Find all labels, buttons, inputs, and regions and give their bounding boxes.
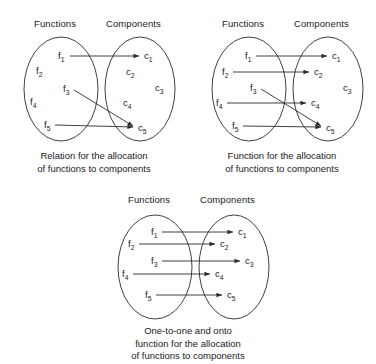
node-f2: f2 — [222, 66, 229, 79]
node-c3: c3 — [245, 255, 254, 268]
node-c4: c4 — [311, 97, 320, 110]
bijection-caption: One-to-one and onto function for the all… — [94, 325, 282, 363]
node-f1: f1 — [245, 50, 252, 63]
relation-caption: Relation for the allocation of functions… — [0, 150, 188, 175]
node-f5: f5 — [232, 120, 239, 133]
node-c4: c4 — [215, 268, 224, 281]
node-f3: f3 — [151, 255, 158, 268]
panel-bijection: Functions Components f1 f2 f3 f4 f5 c1 c… — [94, 182, 282, 364]
bijection-caption-line-1: One-to-one and onto — [94, 325, 282, 338]
node-f1: f1 — [151, 226, 158, 239]
node-c2: c2 — [220, 238, 229, 251]
node-f2: f2 — [128, 238, 135, 251]
functions-column-header: Functions — [34, 18, 76, 29]
panel-relation: Functions Components f1 f2 f3 f4 f5 c1 c… — [0, 0, 188, 182]
node-f5: f5 — [44, 119, 51, 132]
relation-caption-line-1: Relation for the allocation — [0, 150, 188, 163]
edge-f3-c5 — [74, 90, 133, 126]
node-c3: c3 — [155, 82, 164, 95]
node-f4: f4 — [30, 96, 37, 109]
node-c4: c4 — [123, 97, 132, 110]
edge-f5-c5 — [55, 125, 133, 127]
node-f3: f3 — [250, 82, 257, 95]
node-f3: f3 — [63, 83, 70, 96]
node-f4: f4 — [122, 268, 129, 281]
components-column-header: Components — [106, 18, 161, 29]
bijection-caption-line-3: of functions to components — [94, 350, 282, 363]
node-c3: c3 — [343, 82, 352, 95]
relation-caption-line-2: of functions to components — [0, 163, 188, 176]
node-c1: c1 — [238, 226, 247, 239]
function-caption: Function for the allocation of functions… — [188, 150, 376, 175]
node-f5: f5 — [145, 289, 152, 302]
node-c5: c5 — [138, 122, 147, 135]
node-c5: c5 — [326, 122, 335, 135]
node-c2: c2 — [126, 66, 135, 79]
components-set-ellipse — [199, 215, 269, 319]
bijection-mapping-svg: f1 f2 f3 f4 f5 c1 c2 c3 c4 c5 — [94, 182, 282, 322]
node-f1: f1 — [58, 50, 65, 63]
functions-set-ellipse — [212, 37, 286, 141]
node-c1: c1 — [144, 50, 153, 63]
node-c2: c2 — [314, 66, 323, 79]
functions-column-header: Functions — [222, 18, 264, 29]
node-c5: c5 — [227, 289, 236, 302]
function-caption-line-1: Function for the allocation — [188, 150, 376, 163]
node-f4: f4 — [216, 97, 223, 110]
panel-function: Functions Components f1 f2 f3 f4 f5 c1 c… — [188, 0, 376, 182]
components-column-header: Components — [294, 18, 349, 29]
edge-f5-c5 — [243, 126, 321, 127]
node-f2: f2 — [36, 65, 43, 78]
bijection-caption-line-2: function for the allocation — [94, 338, 282, 351]
function-caption-line-2: of functions to components — [188, 163, 376, 176]
node-c1: c1 — [332, 50, 341, 63]
